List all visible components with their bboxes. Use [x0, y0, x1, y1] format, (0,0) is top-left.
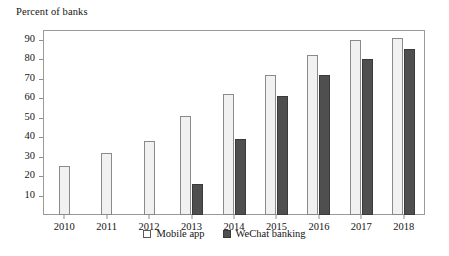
- y-axis-tick-label: 30: [25, 150, 36, 161]
- x-axis-tick-mark: [106, 215, 107, 219]
- x-axis-tick-mark: [149, 215, 150, 219]
- bar-mobile-app: [180, 116, 191, 215]
- square-filled-icon: [223, 230, 231, 238]
- bar-mobile-app: [307, 55, 318, 215]
- x-axis-tick-mark: [318, 215, 319, 219]
- bars-layer: [43, 30, 425, 215]
- chart-title: Percent of banks: [16, 6, 88, 17]
- y-axis-tick-label: 40: [25, 130, 36, 141]
- bar-mobile-app: [392, 38, 403, 215]
- chart-legend: Mobile appWeChat banking: [0, 228, 449, 239]
- x-axis-tick-mark: [64, 215, 65, 219]
- x-axis-tick-mark: [276, 215, 277, 219]
- bar-wechat-banking: [192, 184, 203, 215]
- bar-mobile-app: [59, 166, 70, 215]
- y-axis-tick-label: 80: [25, 52, 36, 63]
- x-axis-tick-mark: [191, 215, 192, 219]
- bar-mobile-app: [265, 75, 276, 215]
- y-axis-tick-label: 10: [25, 189, 36, 200]
- y-axis-tick-label: 20: [25, 169, 36, 180]
- bar-wechat-banking: [235, 139, 246, 215]
- legend-item[interactable]: Mobile app: [143, 228, 204, 239]
- bar-wechat-banking: [404, 49, 415, 215]
- y-axis-tick-label: 50: [25, 111, 36, 122]
- bar-chart: Percent of banks 102030405060708090 2010…: [0, 0, 449, 256]
- bar-wechat-banking: [319, 75, 330, 215]
- x-axis-tick-mark: [233, 215, 234, 219]
- bar-mobile-app: [101, 153, 112, 215]
- legend-item[interactable]: WeChat banking: [223, 228, 306, 239]
- legend-item-label: Mobile app: [156, 228, 204, 239]
- bar-wechat-banking: [362, 59, 373, 215]
- bar-mobile-app: [350, 40, 361, 215]
- bar-mobile-app: [223, 94, 234, 215]
- y-axis-tick-label: 60: [25, 91, 36, 102]
- x-axis-tick-mark: [403, 215, 404, 219]
- y-axis-tick-label: 90: [25, 33, 36, 44]
- bar-wechat-banking: [277, 96, 288, 215]
- x-axis-tick-mark: [361, 215, 362, 219]
- legend-item-label: WeChat banking: [236, 228, 306, 239]
- y-axis-tick-label: 70: [25, 72, 36, 83]
- y-axis: 102030405060708090: [0, 30, 43, 215]
- square-open-icon: [143, 230, 151, 238]
- bar-mobile-app: [144, 141, 155, 215]
